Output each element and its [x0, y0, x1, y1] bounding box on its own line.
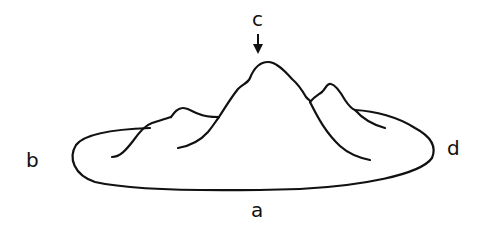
left-inner-slope [178, 117, 219, 148]
label-a: a [251, 200, 263, 220]
main-peak [219, 62, 310, 117]
mountain-drawing [0, 0, 487, 234]
label-c: c [252, 9, 263, 29]
right-subpeak [310, 84, 355, 110]
label-b: b [26, 150, 39, 170]
left-flank [112, 117, 171, 157]
arrow-down-icon [253, 34, 263, 54]
left-subpeak [171, 108, 219, 117]
diagram-canvas: c b d a [0, 0, 487, 234]
label-d: d [447, 138, 460, 158]
